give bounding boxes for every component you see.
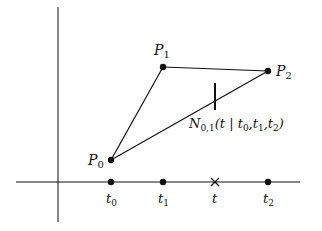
knot-t0-marker	[108, 179, 114, 185]
point-p0	[108, 157, 114, 163]
label-t: t	[212, 191, 218, 206]
point-p2	[265, 68, 271, 74]
label-p2: P2	[275, 63, 292, 81]
label-t0: t0	[106, 191, 117, 208]
knot-t2-marker	[265, 179, 271, 185]
point-p1	[160, 64, 166, 70]
label-p0: P0	[87, 152, 104, 170]
edge-p1-p2	[163, 67, 268, 71]
label-t2: t2	[263, 191, 274, 208]
blossom-label: N0,1(t | t0,t1,t2)	[188, 116, 284, 133]
knot-t1-marker	[160, 179, 166, 185]
label-t1: t1	[158, 191, 169, 208]
blossoming-diagram: P0 P1 P2 N0,1(t | t0,t1,t2) t0 t1 t t2	[0, 0, 322, 231]
edge-p0-p1	[111, 67, 163, 160]
label-p1: P1	[153, 42, 170, 60]
